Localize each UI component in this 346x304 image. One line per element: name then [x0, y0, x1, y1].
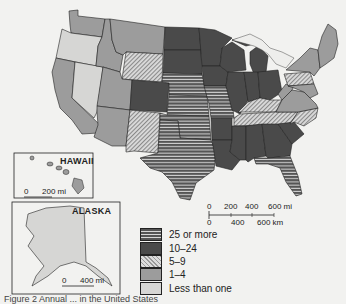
scale-km-0: 0 — [207, 218, 211, 227]
hawaii-scale-value: 200 mi — [42, 187, 66, 196]
state-new-england — [318, 24, 338, 68]
legend-swatch-stripes — [140, 228, 162, 241]
state-north-dakota — [164, 27, 201, 50]
legend-item-5-9: 5–9 — [140, 255, 232, 268]
state-new-mexico — [126, 110, 160, 153]
legend-swatch-medium — [140, 268, 162, 281]
scale-km-400: 400 — [231, 218, 244, 227]
legend: 25 or more 10–24 5–9 1–4 Less than one — [140, 228, 232, 295]
hawaii-label: HAWAII — [60, 156, 94, 166]
state-kansas — [167, 95, 209, 116]
legend-item-less-than-one: Less than one — [140, 282, 232, 295]
state-ohio — [258, 70, 282, 100]
state-wyoming — [122, 52, 163, 82]
alaska-scale-value: 400 mi — [80, 276, 104, 285]
state-south-dakota — [163, 50, 202, 74]
scale-mi-0: 0 — [207, 202, 211, 211]
hawaii-scale-zero: 0 — [24, 187, 28, 196]
legend-label: 25 or more — [169, 229, 217, 240]
state-florida — [254, 156, 302, 196]
scale-km-600: 600 km — [257, 218, 283, 227]
legend-label: 10–24 — [169, 243, 197, 254]
legend-item-10-24: 10–24 — [140, 241, 232, 254]
alaska-scale-zero: 0 — [62, 276, 66, 285]
state-nebraska — [162, 73, 207, 96]
legend-label: 1–4 — [169, 269, 186, 280]
legend-swatch-dark — [140, 242, 162, 255]
state-arizona — [94, 106, 130, 146]
scale-mi-200: 200 — [224, 202, 237, 211]
legend-swatch-light — [140, 282, 162, 295]
legend-label: 5–9 — [169, 256, 186, 267]
scale-mi-600: 600 mi — [268, 202, 292, 211]
state-colorado — [130, 80, 169, 112]
state-washington — [69, 10, 105, 37]
alaska-label: ALASKA — [72, 206, 111, 216]
scale-mi-400: 400 — [245, 202, 258, 211]
legend-swatch-hatch — [140, 255, 162, 268]
legend-label: Less than one — [169, 283, 232, 294]
state-new-york — [286, 48, 320, 76]
legend-item-1-4: 1–4 — [140, 268, 232, 281]
state-montana — [110, 19, 165, 55]
state-pennsylvania — [284, 72, 314, 86]
state-arkansas — [211, 118, 232, 140]
legend-item-25-or-more: 25 or more — [140, 228, 232, 241]
figure-caption: Figure 2 Annual ... in the United States — [4, 294, 158, 304]
